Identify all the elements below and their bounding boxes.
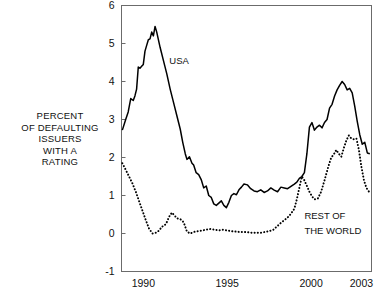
y-axis-title: PERCENT OF DEFAULTING ISSUERS WITH A RAT… <box>8 110 112 168</box>
y-axis-title-line-3: ISSUERS <box>8 133 112 145</box>
x-tick-label: 1990 <box>132 277 156 289</box>
y-axis-title-line-1: PERCENT <box>8 110 112 122</box>
annotation-label: THE WORLD <box>304 225 361 236</box>
x-tick-label: 2003 <box>350 277 374 289</box>
annotation-label: USA <box>169 55 189 66</box>
x-axis-ticks: 1990199520002003 <box>132 277 374 289</box>
y-tick-label: 0 <box>109 227 115 239</box>
y-tick-label: 6 <box>109 0 115 11</box>
y-axis-title-line-4: WITH A <box>8 145 112 157</box>
y-tick-label: 1 <box>109 189 115 201</box>
x-tick-label: 1995 <box>216 277 240 289</box>
y-tick-label: 5 <box>109 37 115 49</box>
y-axis-title-line-5: RATING <box>8 156 112 168</box>
y-tick-label: 4 <box>109 75 115 87</box>
y-tick-label: -1 <box>105 265 114 277</box>
y-axis-title-line-2: OF DEFAULTING <box>8 122 112 134</box>
chart-container: PERCENT OF DEFAULTING ISSUERS WITH A RAT… <box>0 0 382 298</box>
x-tick-label: 2000 <box>299 277 323 289</box>
annotation-label: REST OF <box>304 210 345 221</box>
